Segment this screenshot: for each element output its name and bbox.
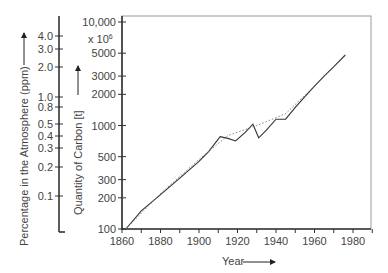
trend-line	[126, 55, 345, 229]
carbon-tick-label: 100	[98, 223, 116, 235]
data-series	[126, 55, 345, 229]
x-tick-label: 1980	[341, 235, 365, 247]
carbon-tick-label: 2000	[92, 88, 116, 100]
x-axis-ticks: 1860188019001920194019601980	[110, 229, 372, 247]
ppm-tick-label: 1.0	[38, 91, 53, 103]
x-tick-label: 1920	[225, 235, 249, 247]
ppm-tick-label: 4.0	[38, 30, 53, 42]
x-tick-label: 1880	[148, 235, 172, 247]
ppm-tick-label: 0.3	[38, 142, 53, 154]
ppm-tick-label: 0.4	[38, 130, 53, 142]
ppm-tick-label: 0.1	[38, 190, 53, 202]
carbon-tick-label: 300	[98, 174, 116, 186]
carbon-tick-label: 200	[98, 192, 116, 204]
ppm-axis-title: Percentage in the Atmosphere (ppm)	[18, 66, 30, 246]
carbon-axis-ticks: 100200300500100020003000500010,000	[82, 16, 126, 235]
carbon-tick-label: 1000	[92, 120, 116, 132]
carbon-axis-title: Quantity of Carbon [t]	[72, 110, 84, 215]
x-tick-label: 1960	[302, 235, 326, 247]
carbon-tick-label: 10,000	[82, 16, 116, 28]
observed-line	[126, 55, 345, 229]
ppm-tick-label: 0.2	[38, 161, 53, 173]
carbon-chart: 1860188019001920194019601980 10020030050…	[0, 0, 388, 273]
carbon-tick-label: 3000	[92, 70, 116, 82]
x-tick-label: 1940	[264, 235, 288, 247]
x-tick-label: 1900	[187, 235, 211, 247]
x-tick-label: 1860	[110, 235, 134, 247]
carbon-tick-label: 500	[98, 151, 116, 163]
ppm-tick-label: 0.5	[38, 118, 53, 130]
ppm-tick-label: 3.0	[38, 43, 53, 55]
x-axis-title: Year	[222, 255, 245, 267]
plot-frame	[122, 16, 371, 229]
ppm-tick-label: 2.0	[38, 61, 53, 73]
carbon-tick-label: 5000	[92, 47, 116, 59]
multiplier-label: x 106	[88, 33, 113, 45]
